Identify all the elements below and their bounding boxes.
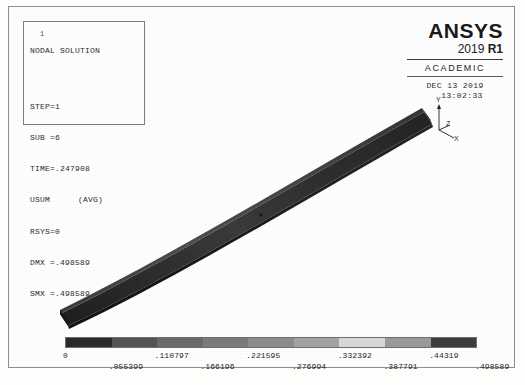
colorbar-tick-9: .498589 <box>475 362 509 371</box>
info-smx: SMX =.498589 <box>30 289 103 299</box>
ansys-logo-text: ANSYS <box>407 20 503 41</box>
colorbar-band-2 <box>157 338 203 347</box>
colorbar-tick-8: .44319 <box>429 351 458 360</box>
info-sub: SUB =6 <box>30 133 103 143</box>
colorbar-band-1 <box>112 338 158 347</box>
info-time: TIME=.247908 <box>30 164 103 174</box>
ansys-version-release: R1 <box>488 42 503 56</box>
info-dmx: DMX =.498589 <box>30 258 103 268</box>
colorbar-tick-3: .166196 <box>200 362 234 371</box>
plot-date: DEC 13 2019 <box>407 81 503 91</box>
plot-frame: Y X Z 1 NODAL SOLUTION STEP=1 SUB =6 TIM… <box>8 6 515 368</box>
colorbar-band-5 <box>294 338 340 347</box>
colorbar-band-7 <box>385 338 431 347</box>
brand-divider-top <box>407 59 503 60</box>
contour-colorbar <box>65 337 477 348</box>
colorbar-tick-labels: 0.055399.110797.166196.221595.276994.332… <box>9 349 516 377</box>
ansys-version: 2019 R1 <box>407 42 503 56</box>
ansys-plot-window: Y X Z 1 NODAL SOLUTION STEP=1 SUB =6 TIM… <box>0 0 525 385</box>
colorbar-tick-4: .221595 <box>246 351 280 360</box>
info-title: NODAL SOLUTION <box>30 46 103 56</box>
colorbar-tick-5: .276994 <box>292 362 326 371</box>
triad-z-label: Z <box>446 120 450 127</box>
ansys-branding: ANSYS 2019 R1 ACADEMIC DEC 13 2019 13:02… <box>407 20 503 101</box>
nodal-solution-text: NODAL SOLUTION STEP=1 SUB =6 TIME=.24790… <box>30 25 103 320</box>
colorbar-bands <box>65 337 477 348</box>
info-usum-row: USUM(AVG) <box>30 195 103 205</box>
ansys-version-year: 2019 <box>458 42 488 56</box>
info-rsys: RSYS=0 <box>30 227 103 237</box>
plot-time: 13:02:33 <box>407 91 503 101</box>
colorbar-tick-0: 0 <box>63 351 68 360</box>
colorbar-band-4 <box>248 338 294 347</box>
brand-divider-bottom <box>407 76 503 77</box>
beam-front-face <box>60 112 432 326</box>
colorbar-tick-2: .110797 <box>155 351 189 360</box>
colorbar-band-0 <box>66 338 112 347</box>
colorbar-tick-6: .332392 <box>338 351 372 360</box>
colorbar-tick-7: .387791 <box>383 362 417 371</box>
colorbar-band-8 <box>431 338 477 347</box>
ansys-license-type: ACADEMIC <box>407 62 503 74</box>
triad-x-label: X <box>454 135 459 142</box>
colorbar-tick-1: .055399 <box>109 362 143 371</box>
colorbar-band-3 <box>203 338 249 347</box>
beam-top-face <box>60 108 424 314</box>
info-usum-avg: (AVG) <box>50 195 103 204</box>
colorbar-band-6 <box>339 338 385 347</box>
info-usum: USUM <box>30 195 50 204</box>
midspan-node-marker <box>260 214 263 217</box>
info-step: STEP=1 <box>30 102 103 112</box>
